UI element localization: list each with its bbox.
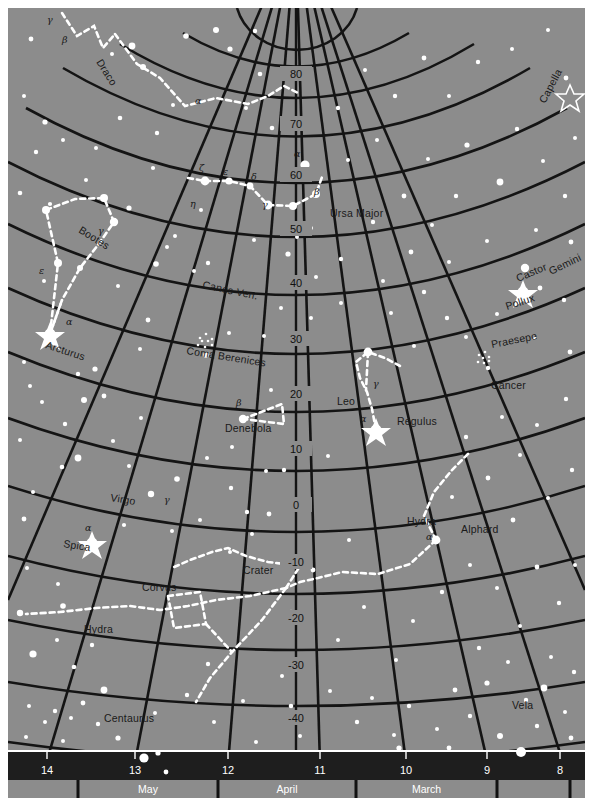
declination-tick-20: 20 [290,388,302,400]
ra-hour-label-13: 13 [129,764,141,776]
greek-label-8: α [294,148,301,159]
greek-label-3: ζ [199,162,205,173]
declination-tick-70: 70 [290,118,302,130]
constellation-label-vela-14: Vela [512,699,533,711]
constellation-label-ursa-major-1: Ursa Major [330,207,384,219]
greek-label-6: η [190,198,196,209]
ra-hour-label-10: 10 [400,764,412,776]
greek-label-15: α [360,413,367,424]
ra-hour-label-14: 14 [41,764,53,776]
declination-tick-50: 50 [290,223,302,235]
declination-tick-0: 0 [293,499,299,511]
greek-label-10: γ [98,225,104,236]
ra-hour-label-11: 11 [314,764,325,776]
constellation-label-crater-10: Crater [243,564,274,576]
greek-label-17: γ [164,494,170,505]
declination-tick--20: -20 [288,612,304,624]
declination-tick-40: 40 [290,277,302,289]
greek-label-18: α [426,531,433,542]
greek-label-12: α [66,316,73,327]
declination-tick-60: 60 [290,169,302,181]
star-label-alphard: Alphard [461,523,499,535]
constellation-label-centaurus-13: Centaurus [104,712,154,724]
declination-tick--10: -10 [288,556,304,568]
greek-label-7: γ [262,199,268,210]
ra-hour-label-8: 8 [557,764,563,776]
star-chart-page: 80706050403020100-10-20-30-40 DracoUrsa … [0,0,593,806]
declination-tick-10: 10 [290,443,302,455]
declination-tick--30: -30 [288,659,304,671]
sky-map: 80706050403020100-10-20-30-40 DracoUrsa … [0,0,593,806]
declination-tick--40: -40 [288,712,304,724]
greek-label-4: ε [223,166,228,177]
month-label-march: March [412,783,441,795]
greek-label-0: β [61,34,68,45]
month-label-may: May [138,783,159,795]
constellation-label-leo-5: Leo [337,395,355,407]
constellation-label-hydra-12: Hydra [84,623,113,635]
greek-label-16: α [85,522,92,533]
greek-label-14: γ [373,378,379,389]
declination-tick-80: 80 [290,68,302,80]
constellation-label-hydra-11: Hydra [407,515,436,527]
greek-label-9: β [313,186,320,197]
right-ascension-bar [8,752,585,780]
greek-label-13: β [235,397,242,408]
greek-label-5: δ [251,171,257,182]
constellation-label-cancer-6: Cancer [491,379,526,391]
constellation-label-corvus-9: Corvus [142,581,176,593]
month-label-april: April [276,783,297,795]
declination-tick-30: 30 [290,333,302,345]
star-label-regulus: Regulus [397,415,437,427]
greek-label-1: γ [47,14,53,25]
greek-label-11: ε [39,265,44,276]
star-label-denebola: Denebola [225,422,272,434]
greek-label-2: α [195,95,202,106]
ra-hour-label-12: 12 [222,764,234,776]
ra-hour-label-9: 9 [484,764,490,776]
